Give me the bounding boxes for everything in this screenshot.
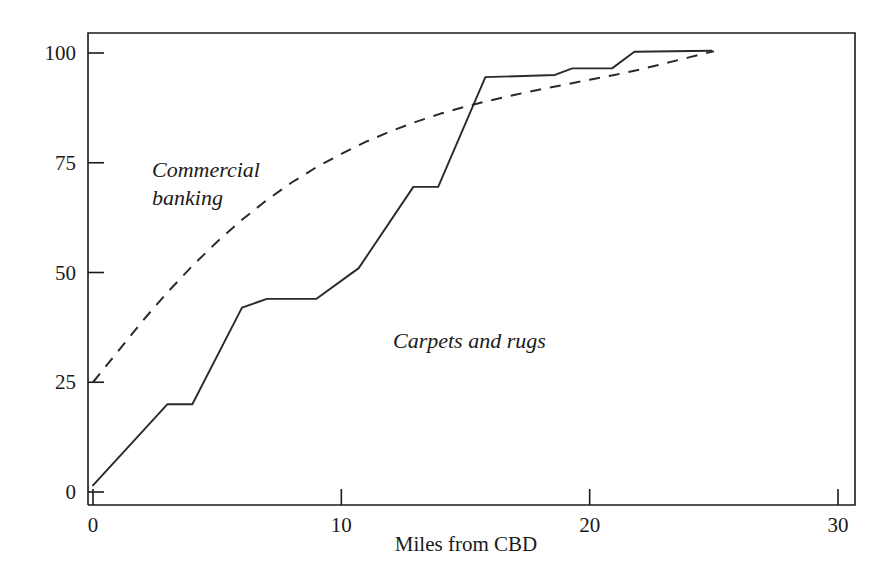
- y-tick-label: 75: [55, 151, 76, 175]
- cumulative-distribution-chart: 0255075100 0102030 Commercial banking Ca…: [0, 0, 886, 580]
- x-tick-label: 10: [331, 513, 352, 537]
- series-label-carpets-and-rugs: Carpets and rugs: [393, 328, 546, 353]
- y-tick-label: 100: [45, 41, 77, 65]
- x-tick-label: 20: [579, 513, 600, 537]
- x-axis-title: Miles from CBD: [395, 532, 537, 556]
- x-tick-label: 0: [88, 513, 99, 537]
- y-tick-label: 50: [55, 261, 76, 285]
- series-label-commercial-banking-line2: banking: [152, 185, 223, 210]
- y-tick-label: 25: [55, 370, 76, 394]
- chart-background: [0, 0, 886, 580]
- series-label-commercial-banking: Commercial: [152, 157, 260, 182]
- x-tick-label: 30: [828, 513, 849, 537]
- chart-page: 0255075100 0102030 Commercial banking Ca…: [0, 0, 886, 580]
- y-tick-label: 0: [66, 480, 77, 504]
